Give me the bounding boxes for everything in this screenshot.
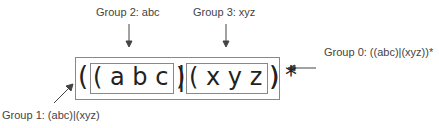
group3-text: ( x y z )	[189, 65, 279, 89]
group2-text: ( a b c )	[93, 65, 185, 89]
outer-close-paren: )	[269, 63, 279, 89]
group1-arrow-icon	[54, 88, 69, 103]
star: *	[285, 63, 297, 87]
pipe: |	[177, 63, 186, 89]
outer-open-paren: (	[78, 63, 88, 89]
